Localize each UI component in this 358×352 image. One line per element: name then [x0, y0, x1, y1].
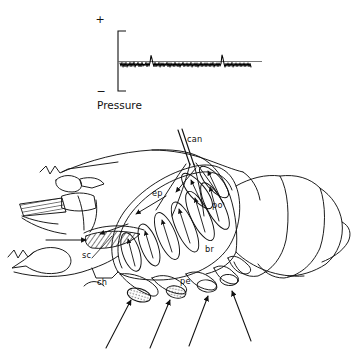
pereiopod-tip-2	[165, 284, 187, 300]
maxilliped-shaft	[62, 193, 96, 211]
inhalant-arrow-2	[150, 300, 170, 348]
inhalant-arrow-4	[232, 291, 251, 341]
abdomen-segment-3	[288, 188, 342, 276]
endopodite-link	[78, 196, 84, 230]
gill-chamber-diagram: can ep po br sc ch pe	[0, 0, 358, 352]
mouthpart-lobe-1	[56, 176, 82, 193]
figure-root: + − Pressure	[0, 0, 358, 352]
maxilliped-tip-b	[22, 218, 66, 234]
lower-appendage-edge	[14, 256, 118, 277]
lower-appendage-outline	[12, 248, 71, 274]
label-ep: ep	[152, 188, 163, 198]
scaphognathite-outline	[85, 231, 140, 248]
maxilliped-tip-a	[22, 216, 58, 224]
abdomen-segment-4-telson	[322, 222, 350, 262]
mouthpart-lobe-2	[80, 178, 104, 188]
branchiostegite-outline	[112, 165, 240, 280]
abdomen-segment-1	[234, 175, 288, 276]
carapace-abdomen-joint	[243, 172, 260, 200]
label-ch: ch	[97, 277, 107, 287]
maxilliped-hatched-palp	[20, 198, 66, 216]
label-sc: sc	[82, 250, 91, 260]
carapace-dorsal-edge	[152, 150, 243, 172]
label-br: br	[205, 244, 214, 254]
label-can: can	[187, 134, 202, 144]
antennule-zigzag	[8, 250, 34, 258]
antenna-upper	[40, 162, 118, 174]
abdomen-ventral-edge	[236, 252, 304, 276]
inhalant-arrow-3	[189, 296, 208, 346]
label-pe: pe	[180, 276, 191, 286]
label-po: po	[212, 200, 223, 210]
abdomen-segment-2	[258, 176, 325, 279]
inhalant-flow-arrows	[106, 291, 251, 348]
inhalant-arrow-1	[106, 300, 131, 348]
